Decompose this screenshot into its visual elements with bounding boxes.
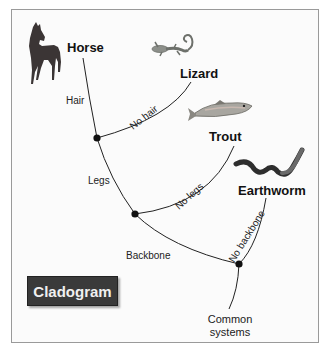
horse-branch: [83, 58, 239, 264]
diagram-title: Cladogram: [27, 276, 118, 306]
trait-no-backbone-label: No backbone: [226, 208, 267, 264]
trait-hair-label: Hair: [66, 95, 85, 106]
trait-backbone-label: Backbone: [126, 250, 171, 261]
trait-no-legs-label: No legs: [173, 181, 206, 212]
taxon-lizard-label: Lizard: [180, 66, 218, 81]
taxon-horse-label: Horse: [67, 40, 104, 55]
trout-image: [188, 100, 252, 121]
lizard-image: [152, 35, 193, 56]
node-legs: [131, 210, 138, 217]
root-label-line2: systems: [210, 326, 251, 338]
earthworm-image: [236, 150, 302, 174]
horse-image: [29, 22, 61, 84]
taxon-trout-label: Trout: [209, 129, 242, 144]
root-branch: [229, 264, 239, 309]
node-hair: [93, 134, 100, 141]
trait-legs-label: Legs: [88, 175, 110, 186]
root-label-line1: Common: [208, 313, 253, 325]
taxon-earthworm-label: Earthworm: [238, 183, 306, 198]
trait-no-hair-label: No hair: [127, 103, 160, 132]
